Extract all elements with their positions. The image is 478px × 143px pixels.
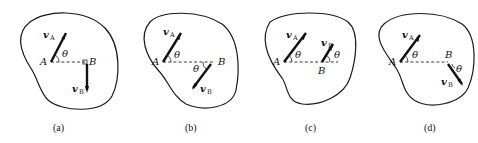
- angle-arc: [452, 64, 455, 68]
- label-velocity-b-sub: B: [448, 81, 453, 89]
- label-point-b: B: [88, 56, 96, 67]
- angle-arc: [203, 62, 206, 69]
- label-point-a: A: [151, 56, 159, 67]
- label-velocity-b: v: [441, 76, 447, 87]
- panel-d: A B θ θ v A v B (d): [379, 14, 474, 135]
- label-velocity-b-sub: B: [79, 88, 84, 96]
- rigid-body-outline: [21, 13, 118, 109]
- label-velocity-b-sub: B: [207, 88, 212, 96]
- label-velocity-a: v: [163, 26, 169, 37]
- label-angle-a: θ: [295, 49, 301, 60]
- caption-b: (b): [185, 122, 197, 134]
- label-velocity-b-sub: B: [328, 42, 333, 50]
- caption-c: (c): [305, 122, 316, 134]
- label-velocity-a-sub: A: [49, 34, 55, 42]
- label-point-b: B: [217, 56, 225, 67]
- rigid-body-velocity-figure: A B θ v A v B (a) A B θ θ v A v B (b): [0, 0, 478, 143]
- label-velocity-a-sub: A: [408, 34, 414, 42]
- label-angle-b: θ: [193, 63, 199, 74]
- panel-b: A B θ θ v A v B (b): [144, 13, 238, 134]
- label-velocity-a: v: [43, 29, 49, 40]
- label-velocity-b: v: [321, 37, 327, 48]
- caption-a: (a): [53, 122, 64, 134]
- label-velocity-a: v: [286, 29, 292, 40]
- label-angle-b: θ: [334, 49, 340, 60]
- angle-arc: [55, 55, 59, 62]
- label-velocity-b: v: [200, 83, 206, 94]
- label-angle-a: θ: [174, 49, 180, 60]
- label-point-b: B: [444, 49, 452, 60]
- label-point-b: B: [317, 65, 325, 76]
- label-angle-a: θ: [412, 49, 418, 60]
- arrowhead-icon: [85, 86, 89, 93]
- label-velocity-b: v: [72, 83, 78, 94]
- label-velocity-a: v: [402, 29, 408, 40]
- panel-a: A B θ v A v B (a): [21, 13, 118, 134]
- label-velocity-a-sub: A: [169, 31, 175, 39]
- angle-arc: [327, 56, 330, 63]
- label-point-a: A: [388, 56, 396, 67]
- label-velocity-a-sub: A: [292, 34, 298, 42]
- label-point-a: A: [39, 56, 47, 67]
- panel-c: A B θ θ v A v B (c): [265, 13, 356, 134]
- label-point-a: A: [272, 56, 280, 67]
- caption-d: (d): [424, 122, 436, 134]
- label-angle: θ: [62, 48, 68, 59]
- label-angle-b: θ: [456, 63, 462, 74]
